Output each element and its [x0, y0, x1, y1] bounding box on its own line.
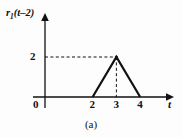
y-tick-label-2: 2 — [30, 51, 36, 62]
x-tick-label-2: 2 — [90, 99, 96, 110]
figure-caption: (a) — [0, 118, 182, 130]
figure-panel: r1(t–2) t 0 2 3 4 2 (a) — [0, 0, 182, 138]
y-axis-label: r1(t–2) — [6, 8, 34, 21]
x-tick-label-4: 4 — [137, 99, 143, 110]
x-axis-label: t — [168, 99, 171, 110]
peak-vertex-marker — [115, 56, 118, 59]
x-tick-label-0: 0 — [33, 99, 39, 110]
y-axis-label-argument: (t–2) — [14, 7, 34, 18]
y-axis-arrowhead — [41, 13, 49, 21]
x-tick-label-3: 3 — [113, 99, 119, 110]
